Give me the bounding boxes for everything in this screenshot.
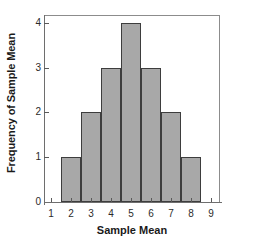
x-tick-label: 4: [108, 209, 114, 219]
y-tick-label: 4: [35, 18, 41, 28]
x-tick-label: 5: [128, 209, 134, 219]
x-tick-label: 7: [168, 209, 174, 219]
bar: [141, 68, 161, 202]
x-tick-label: 6: [148, 209, 154, 219]
y-tick-label: 0: [35, 197, 41, 207]
histogram-figure: Frequency of Sample Mean 01234 123456789…: [0, 0, 275, 247]
x-tick-label: 8: [188, 209, 194, 219]
x-tick-mark: [171, 198, 172, 203]
x-tick-mark: [151, 198, 152, 203]
x-tick-mark: [91, 198, 92, 203]
plot-area: 01234 123456789: [44, 15, 220, 203]
y-tick-mark: [44, 68, 49, 69]
bar: [121, 23, 141, 202]
x-tick-label: 3: [88, 209, 94, 219]
x-axis-title: Sample Mean: [44, 224, 220, 236]
y-tick-mark: [44, 202, 49, 203]
bar: [61, 157, 81, 202]
y-tick-mark: [44, 23, 49, 24]
bar: [101, 68, 121, 202]
bar: [81, 112, 101, 202]
x-tick-mark: [71, 198, 72, 203]
x-tick-mark: [111, 198, 112, 203]
x-tick-mark: [131, 198, 132, 203]
x-tick-label: 9: [208, 209, 214, 219]
x-tick-label: 2: [68, 209, 74, 219]
bar: [181, 157, 201, 202]
y-tick-label: 3: [35, 63, 41, 73]
bar: [161, 112, 181, 202]
y-tick-label: 1: [35, 152, 41, 162]
y-tick-mark: [44, 112, 49, 113]
y-axis-title: Frequency of Sample Mean: [0, 0, 22, 205]
x-tick-mark: [211, 198, 212, 203]
y-tick-label: 2: [35, 107, 41, 117]
y-tick-mark: [44, 157, 49, 158]
x-tick-mark: [191, 198, 192, 203]
y-axis-title-text: Frequency of Sample Mean: [5, 32, 17, 172]
x-tick-label: 1: [48, 209, 54, 219]
x-tick-mark: [51, 198, 52, 203]
